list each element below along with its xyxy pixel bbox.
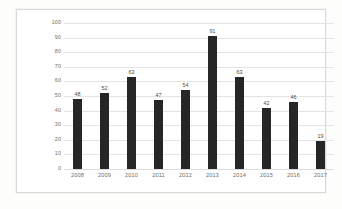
bar-value-label: 52 <box>102 86 108 91</box>
bar[interactable]: 54 <box>181 90 191 169</box>
y-tick-label: 90 <box>55 35 61 40</box>
bar-slot: 48 <box>64 23 91 169</box>
y-tick-label: 10 <box>55 152 61 157</box>
y-tick-label: 50 <box>55 93 61 98</box>
y-tick-label: 80 <box>55 49 61 54</box>
x-tick-label: 2015 <box>253 173 280 179</box>
bar-value-label: 42 <box>264 101 270 106</box>
bar[interactable]: 91 <box>208 36 218 169</box>
x-tick-label: 2016 <box>280 173 307 179</box>
plot-area: 48526347549163424619 <box>64 23 334 169</box>
y-tick-label: 40 <box>55 108 61 113</box>
x-tick-label: 2013 <box>199 173 226 179</box>
bar-series: 48526347549163424619 <box>64 23 334 169</box>
y-tick-label: 30 <box>55 122 61 127</box>
bar-slot: 91 <box>199 23 226 169</box>
bar[interactable]: 52 <box>100 93 110 169</box>
x-tick-label: 2010 <box>118 173 145 179</box>
bar-value-label: 19 <box>318 134 324 139</box>
bar-value-label: 63 <box>237 70 243 75</box>
bar-value-label: 48 <box>75 92 81 97</box>
chart-screenshot: 0102030405060708090100 48526347549163424… <box>0 0 342 209</box>
x-tick-label: 2012 <box>172 173 199 179</box>
bar-slot: 46 <box>280 23 307 169</box>
x-axis: 2008200920102011201220132014201520162017 <box>64 173 334 179</box>
bar[interactable]: 42 <box>262 108 272 169</box>
x-tick-label: 2017 <box>307 173 334 179</box>
bar-slot: 54 <box>172 23 199 169</box>
bar-value-label: 46 <box>291 95 297 100</box>
x-tick-label: 2014 <box>226 173 253 179</box>
bar-slot: 63 <box>118 23 145 169</box>
bar-slot: 42 <box>253 23 280 169</box>
bar-slot: 19 <box>307 23 334 169</box>
bar[interactable]: 47 <box>154 100 164 169</box>
y-tick-label: 20 <box>55 137 61 142</box>
bar-value-label: 63 <box>129 70 135 75</box>
y-tick-label: 0 <box>58 166 61 171</box>
x-tick-label: 2008 <box>64 173 91 179</box>
x-tick-label: 2009 <box>91 173 118 179</box>
bar-slot: 47 <box>145 23 172 169</box>
bar-value-label: 91 <box>210 29 216 34</box>
bar-value-label: 54 <box>183 83 189 88</box>
y-tick-label: 60 <box>55 79 61 84</box>
bar[interactable]: 63 <box>235 77 245 169</box>
bar-value-label: 47 <box>156 93 162 98</box>
y-tick-label: 100 <box>52 20 61 25</box>
bar[interactable]: 63 <box>127 77 137 169</box>
chart-frame: 0102030405060708090100 48526347549163424… <box>16 9 326 193</box>
bar[interactable]: 48 <box>73 99 83 169</box>
y-axis: 0102030405060708090100 <box>39 23 63 169</box>
x-tick-label: 2011 <box>145 173 172 179</box>
gridline <box>64 169 334 170</box>
bar-slot: 52 <box>91 23 118 169</box>
bar[interactable]: 19 <box>316 141 326 169</box>
bar-chart: 0102030405060708090100 48526347549163424… <box>39 23 338 199</box>
bar-slot: 63 <box>226 23 253 169</box>
y-tick-label: 70 <box>55 64 61 69</box>
bar[interactable]: 46 <box>289 102 299 169</box>
